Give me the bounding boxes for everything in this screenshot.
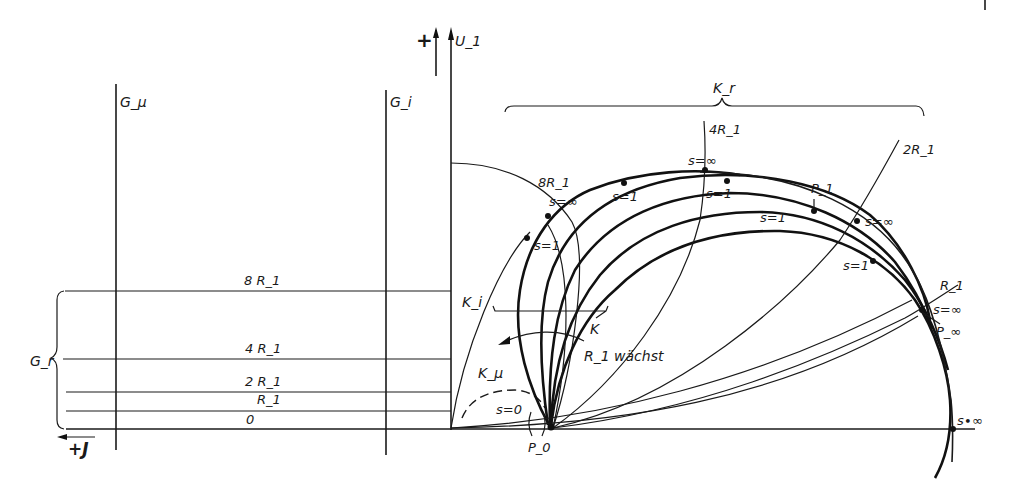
slip-label-s-inf-axis: s∙∞	[957, 413, 983, 428]
p1-label: P_1	[811, 181, 834, 196]
slip-label-s-inf-r1: s=∞	[933, 302, 962, 317]
slip-label-s1-4r1: s=1	[706, 186, 732, 201]
vertical-axis-u1	[448, 27, 454, 430]
circle-diagram: + U_1 +J G_μ G_i 8 R_1 4 R_1 2 R_1 R_1 0…	[0, 0, 1014, 503]
k-r-brace	[505, 98, 924, 116]
g-mu-label: G_μ	[120, 94, 147, 110]
curve-label-8r1: 8R_1	[538, 175, 570, 190]
g-r-level-0: 0	[246, 412, 254, 427]
slip-label-s1-upper: s=1	[612, 189, 638, 204]
k-i-label: K_i	[462, 294, 482, 310]
slip-label-s-inf-4r1: s=∞	[688, 153, 717, 168]
p-inf-label: P_∞	[936, 324, 961, 339]
curve-label-2r1: 2R_1	[903, 142, 935, 157]
u1-label: U_1	[455, 33, 481, 49]
slip-label-s1-2r1: s=1	[843, 258, 869, 273]
plus-arrow	[433, 27, 439, 76]
slip-label-s-inf-2r1: s=∞	[865, 214, 894, 229]
g-r-label: G_r	[30, 353, 55, 369]
plus-j-label: +J	[68, 439, 89, 459]
slip-label-s1-mid: s=1	[760, 210, 786, 225]
g-r-level-8r1: 8 R_1	[244, 273, 280, 288]
g-r-level-r1: R_1	[257, 392, 281, 407]
slip-label-s1-8r1: s=1	[534, 238, 560, 253]
g-r-level-2r1: 2 R_1	[245, 374, 281, 389]
g-i-label: G_i	[390, 94, 412, 110]
slip-label-s-inf-8r1: s=∞	[549, 194, 578, 209]
r1-grows-label: R_1 wächst	[584, 348, 664, 364]
plus-sign: +	[416, 28, 433, 52]
curve-label-r1: R_1	[940, 278, 964, 293]
slip-label-s0: s=0	[496, 402, 522, 417]
curve-points	[524, 167, 956, 432]
k-r-label: K_r	[713, 80, 736, 96]
g-r-level-4r1: 4 R_1	[245, 341, 281, 356]
curve-label-4r1: 4R_1	[709, 122, 741, 137]
k-mu-label: K_μ	[478, 365, 503, 381]
p0-label: P_0	[528, 440, 551, 455]
k-label: K	[590, 321, 601, 337]
